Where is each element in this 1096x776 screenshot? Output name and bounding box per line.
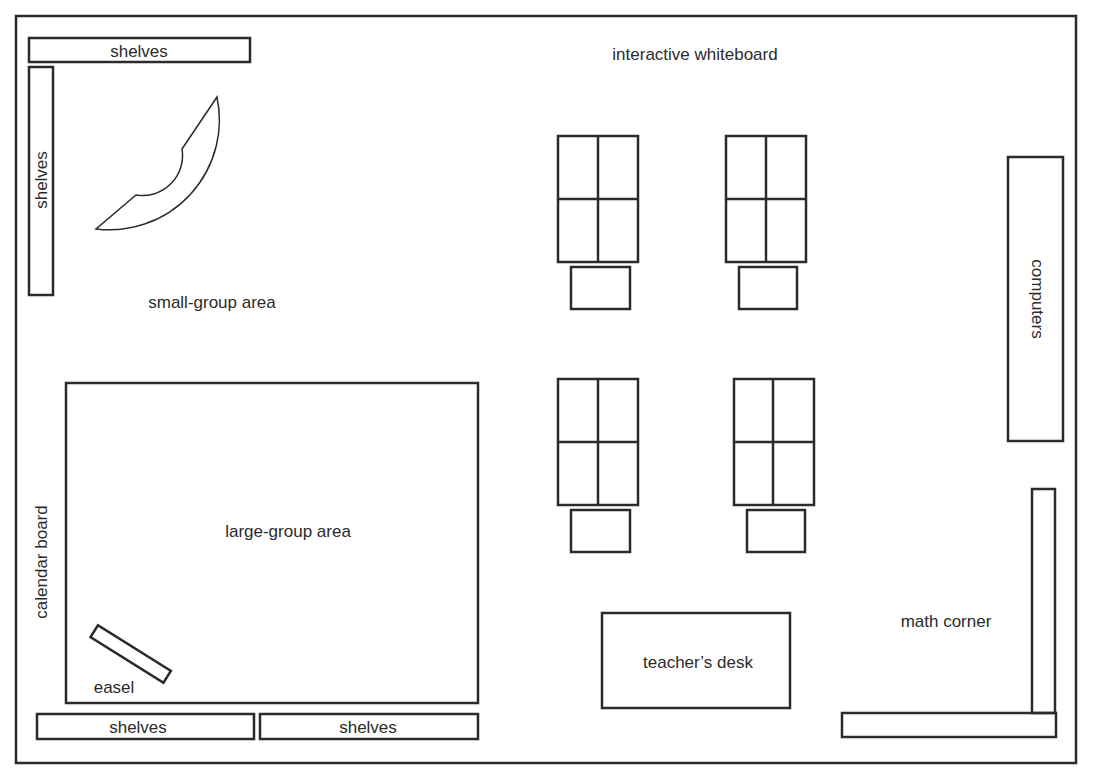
calendar-board-label: calendar board (33, 505, 50, 618)
shelves-top-label: shelves (110, 43, 168, 60)
desk-chair-1 (571, 267, 630, 309)
shelves-bottom-left-label: shelves (109, 719, 167, 736)
desk-cluster-4[interactable] (734, 379, 814, 552)
desk-chair-3 (571, 510, 630, 552)
floor-plan (0, 0, 1096, 776)
shelves-left-label: shelves (33, 151, 50, 209)
small-group-table[interactable] (96, 97, 219, 230)
math-corner-label: math corner (901, 613, 992, 630)
desk-cluster-1[interactable] (558, 136, 638, 309)
large-group-rug[interactable] (66, 383, 478, 703)
room-wall (16, 16, 1076, 763)
interactive-whiteboard-label: interactive whiteboard (612, 46, 777, 63)
easel[interactable] (91, 625, 171, 682)
math-corner-shelf-horizontal[interactable] (842, 713, 1056, 737)
small-group-area-label: small-group area (148, 294, 276, 311)
computers-label: computers (1029, 259, 1046, 338)
easel-label: easel (94, 679, 135, 696)
desk-chair-4 (747, 510, 805, 552)
desk-chair-2 (739, 267, 797, 309)
large-group-area-label: large-group area (225, 523, 351, 540)
teachers-desk-label: teacher’s desk (643, 654, 753, 671)
shelves-bottom-right-label: shelves (339, 719, 397, 736)
desk-cluster-3[interactable] (558, 379, 638, 552)
desk-cluster-2[interactable] (726, 136, 806, 309)
math-corner-shelf-vertical[interactable] (1032, 489, 1055, 713)
